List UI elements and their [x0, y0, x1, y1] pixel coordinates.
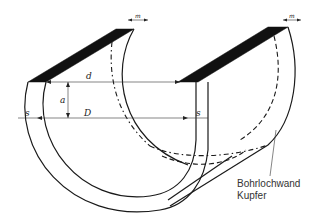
- label-d: d: [86, 72, 92, 81]
- callout-leader: [270, 130, 276, 176]
- hidden-inner-arc-left: [111, 42, 150, 146]
- arrow-a-bottom: [66, 113, 70, 118]
- arrow-D-right: [183, 116, 188, 120]
- arrow-a-top: [66, 82, 70, 87]
- far-outer-arc: [122, 29, 188, 165]
- callout-line-borehole-wall: Bohrlochwand: [237, 178, 300, 190]
- label-a: a: [60, 96, 65, 105]
- label-D: D: [84, 109, 91, 118]
- far-right-wall-band: [178, 27, 288, 82]
- arrow-m-right-1: [283, 19, 287, 22]
- callout-text: Bohrlochwand Kupfer: [237, 178, 300, 202]
- arrow-m-right-2: [297, 19, 301, 22]
- arrow-m-left-2: [144, 19, 148, 22]
- far-left-wall-band: [28, 29, 134, 82]
- label-m-right: m: [289, 13, 295, 19]
- callout-line-copper: Kupfer: [237, 190, 300, 202]
- arrow-m-left-1: [128, 19, 132, 22]
- hidden-bottom-arc-2: [162, 150, 246, 164]
- far-right-outer-arc: [268, 27, 295, 145]
- arrow-d-right: [175, 80, 180, 84]
- label-m-left: m: [135, 13, 141, 19]
- diagram-canvas: d a D s s m m Bohrlochwand Kupfer: [0, 0, 330, 223]
- near-inner-arc: [43, 82, 196, 197]
- arrow-D-left: [37, 116, 42, 120]
- label-s-right: s: [196, 109, 201, 118]
- label-s-left: s: [25, 109, 30, 118]
- bottom-tangent-inner: [168, 156, 232, 200]
- near-outer-arc: [25, 82, 208, 212]
- hidden-bottom-arc-1: [150, 145, 268, 156]
